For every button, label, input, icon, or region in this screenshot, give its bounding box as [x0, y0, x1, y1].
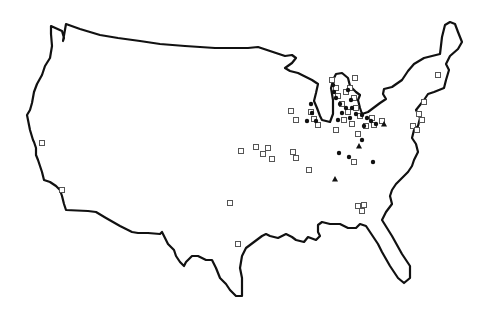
circle-marker-icon [360, 113, 364, 117]
square-marker-icon [352, 160, 357, 165]
circle-marker-icon [354, 112, 358, 116]
square-marker-icon [254, 145, 259, 150]
square-marker-icon [415, 128, 420, 133]
square-marker-icon [316, 123, 321, 128]
circle-marker-icon [337, 151, 341, 155]
square-marker-icon [417, 112, 422, 117]
circle-marker-icon [336, 118, 340, 122]
circle-marker-icon [369, 119, 373, 123]
circle-marker-icon [350, 106, 354, 110]
square-marker-icon [356, 132, 361, 137]
circle-marker-icon [374, 122, 378, 126]
circle-marker-icon [332, 90, 336, 94]
square-marker-icon [236, 242, 241, 247]
circle-marker-icon [305, 119, 309, 123]
circle-marker-icon [346, 88, 350, 92]
square-marker-icon [420, 118, 425, 123]
circle-marker-icon [344, 106, 348, 110]
square-marker-icon [294, 156, 299, 161]
square-marker-icon [307, 168, 312, 173]
circle-marker-icon [314, 119, 318, 123]
square-marker-icon [266, 146, 271, 151]
square-marker-icon [40, 141, 45, 146]
circle-marker-icon [371, 160, 375, 164]
square-marker-icon [294, 118, 299, 123]
square-marker-icon [291, 150, 296, 155]
square-marker-icon [239, 149, 244, 154]
square-marker-icon [356, 204, 361, 209]
square-marker-icon [289, 109, 294, 114]
square-marker-icon [436, 73, 441, 78]
circle-marker-icon [331, 83, 335, 87]
circle-marker-icon [349, 98, 353, 102]
us-outline [27, 22, 462, 296]
circle-marker-icon [340, 111, 344, 115]
square-marker-icon [346, 110, 351, 115]
circle-marker-icon [310, 111, 314, 115]
square-marker-icon [342, 118, 347, 123]
square-marker-icon [422, 100, 427, 105]
square-marker-icon [330, 78, 335, 83]
circle-marker-icon [309, 102, 313, 106]
circle-marker-icon [338, 102, 342, 106]
circle-marker-icon [360, 138, 364, 142]
square-marker-icon [228, 201, 233, 206]
square-marker-icon [353, 76, 358, 81]
square-marker-icon [60, 188, 65, 193]
circle-marker-icon [347, 155, 351, 159]
circle-marker-icon [334, 96, 338, 100]
circle-marker-icon [348, 116, 352, 120]
square-marker-icon [261, 152, 266, 157]
triangle-marker-icon [356, 143, 362, 149]
marker-squares [40, 73, 441, 247]
square-marker-icon [360, 209, 365, 214]
circle-marker-icon [365, 116, 369, 120]
square-marker-icon [354, 106, 359, 111]
square-marker-icon [350, 122, 355, 127]
us-map [0, 0, 486, 322]
square-marker-icon [334, 128, 339, 133]
circle-marker-icon [362, 124, 366, 128]
square-marker-icon [362, 203, 367, 208]
square-marker-icon [270, 157, 275, 162]
triangle-marker-icon [332, 176, 338, 182]
